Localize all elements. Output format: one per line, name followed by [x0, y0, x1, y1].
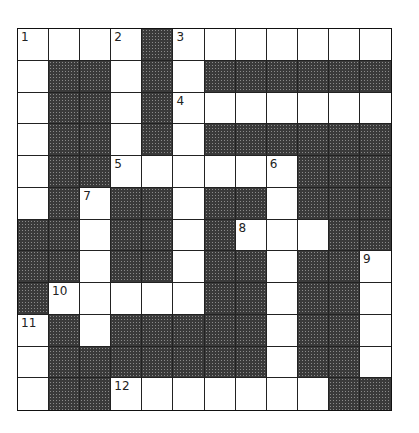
answer-cell[interactable] — [80, 315, 111, 347]
answer-cell[interactable] — [267, 93, 298, 125]
answer-cell[interactable] — [236, 156, 267, 188]
answer-cell[interactable] — [18, 124, 49, 156]
black-cell — [329, 61, 360, 93]
black-cell — [236, 347, 267, 379]
answer-cell[interactable] — [329, 29, 360, 61]
answer-cell[interactable] — [18, 378, 49, 410]
black-cell — [142, 188, 173, 220]
answer-cell[interactable] — [80, 220, 111, 252]
clue-number: 2 — [114, 31, 122, 43]
answer-cell[interactable]: 1 — [18, 29, 49, 61]
crossword-grid: 123456789101112 — [17, 28, 392, 411]
answer-cell[interactable]: 9 — [360, 251, 391, 283]
black-cell — [236, 251, 267, 283]
answer-cell[interactable] — [298, 220, 329, 252]
answer-cell[interactable] — [205, 93, 236, 125]
black-cell — [80, 61, 111, 93]
answer-cell[interactable] — [80, 283, 111, 315]
black-cell — [205, 188, 236, 220]
black-cell — [298, 251, 329, 283]
answer-cell[interactable]: 7 — [80, 188, 111, 220]
answer-cell[interactable] — [298, 93, 329, 125]
black-cell — [236, 283, 267, 315]
black-cell — [236, 124, 267, 156]
black-cell — [18, 283, 49, 315]
answer-cell[interactable] — [329, 93, 360, 125]
answer-cell[interactable] — [173, 378, 204, 410]
black-cell — [49, 61, 80, 93]
answer-cell[interactable] — [267, 188, 298, 220]
answer-cell[interactable] — [205, 29, 236, 61]
answer-cell[interactable] — [236, 29, 267, 61]
answer-cell[interactable] — [142, 378, 173, 410]
black-cell — [111, 251, 142, 283]
answer-cell[interactable] — [360, 93, 391, 125]
answer-cell[interactable]: 4 — [173, 93, 204, 125]
answer-cell[interactable] — [142, 283, 173, 315]
black-cell — [111, 315, 142, 347]
answer-cell[interactable] — [236, 378, 267, 410]
answer-cell[interactable] — [298, 378, 329, 410]
answer-cell[interactable] — [173, 156, 204, 188]
black-cell — [360, 156, 391, 188]
answer-cell[interactable] — [236, 93, 267, 125]
answer-cell[interactable] — [111, 61, 142, 93]
answer-cell[interactable]: 10 — [49, 283, 80, 315]
answer-cell[interactable] — [360, 283, 391, 315]
answer-cell[interactable] — [360, 347, 391, 379]
answer-cell[interactable] — [18, 347, 49, 379]
black-cell — [329, 124, 360, 156]
answer-cell[interactable] — [360, 29, 391, 61]
clue-number: 10 — [52, 285, 67, 297]
answer-cell[interactable] — [18, 93, 49, 125]
black-cell — [236, 315, 267, 347]
answer-cell[interactable] — [18, 188, 49, 220]
black-cell — [142, 61, 173, 93]
answer-cell[interactable] — [80, 251, 111, 283]
answer-cell[interactable] — [205, 378, 236, 410]
answer-cell[interactable] — [111, 283, 142, 315]
answer-cell[interactable] — [18, 156, 49, 188]
black-cell — [329, 220, 360, 252]
answer-cell[interactable]: 2 — [111, 29, 142, 61]
answer-cell[interactable] — [298, 29, 329, 61]
answer-cell[interactable]: 12 — [111, 378, 142, 410]
black-cell — [18, 220, 49, 252]
answer-cell[interactable] — [173, 251, 204, 283]
black-cell — [205, 61, 236, 93]
answer-cell[interactable] — [173, 220, 204, 252]
answer-cell[interactable] — [142, 156, 173, 188]
black-cell — [49, 124, 80, 156]
answer-cell[interactable] — [360, 315, 391, 347]
answer-cell[interactable]: 3 — [173, 29, 204, 61]
black-cell — [267, 61, 298, 93]
black-cell — [236, 188, 267, 220]
answer-cell[interactable] — [267, 251, 298, 283]
answer-cell[interactable] — [173, 283, 204, 315]
answer-cell[interactable] — [49, 29, 80, 61]
answer-cell[interactable] — [267, 378, 298, 410]
answer-cell[interactable] — [18, 61, 49, 93]
answer-cell[interactable]: 5 — [111, 156, 142, 188]
answer-cell[interactable]: 8 — [236, 220, 267, 252]
black-cell — [298, 156, 329, 188]
black-cell — [80, 156, 111, 188]
answer-cell[interactable]: 6 — [267, 156, 298, 188]
answer-cell[interactable] — [173, 188, 204, 220]
answer-cell[interactable] — [267, 283, 298, 315]
answer-cell[interactable] — [267, 315, 298, 347]
black-cell — [298, 315, 329, 347]
answer-cell[interactable] — [205, 156, 236, 188]
answer-cell[interactable] — [111, 93, 142, 125]
answer-cell[interactable] — [267, 347, 298, 379]
black-cell — [329, 378, 360, 410]
answer-cell[interactable] — [267, 29, 298, 61]
answer-cell[interactable] — [173, 124, 204, 156]
black-cell — [49, 315, 80, 347]
answer-cell[interactable]: 11 — [18, 315, 49, 347]
answer-cell[interactable] — [111, 124, 142, 156]
answer-cell[interactable] — [80, 29, 111, 61]
black-cell — [205, 315, 236, 347]
answer-cell[interactable] — [173, 61, 204, 93]
answer-cell[interactable] — [267, 220, 298, 252]
